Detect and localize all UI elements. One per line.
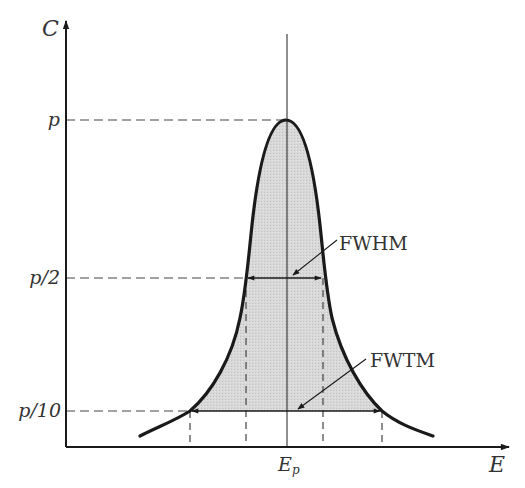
x-tick-ep-sub: p xyxy=(292,463,300,477)
x-tick-ep-main: E xyxy=(277,453,292,475)
fwtm-label: FWTM xyxy=(370,349,435,371)
y-axis-label: C xyxy=(42,16,59,41)
peak-shaded-area xyxy=(190,120,382,411)
y-tick-p-tenth: p/10 xyxy=(18,399,61,421)
fwhm-label: FWHM xyxy=(339,232,408,254)
y-tick-p: p xyxy=(48,108,60,130)
y-tick-p-half: p/2 xyxy=(29,266,60,288)
x-axis-label: E xyxy=(488,452,505,477)
x-tick-ep: Ep xyxy=(277,453,300,477)
peak-diagram: C E p p/2 p/10 Ep FWHM FWTM xyxy=(0,0,525,488)
